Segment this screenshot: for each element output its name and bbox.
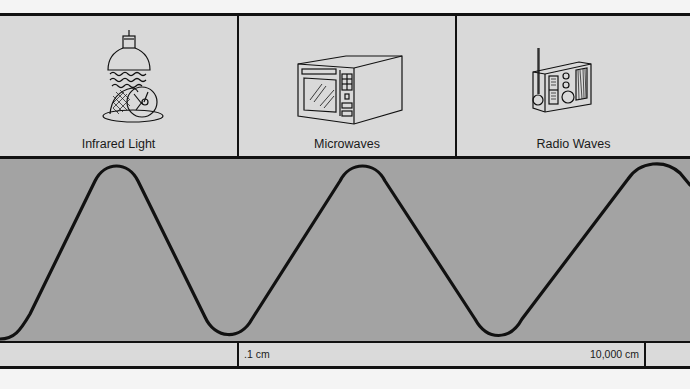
wavelength-scale: .1 cm 10,000 cm	[0, 343, 690, 366]
radio-icon	[529, 48, 599, 120]
scale-tick	[644, 343, 646, 366]
heat-lamp-icon	[98, 30, 168, 126]
panel-label-radio: Radio Waves	[457, 137, 690, 151]
wave-curve	[0, 159, 690, 341]
panel-infrared: Infrared Light	[0, 16, 237, 157]
scale-label-right: 10,000 cm	[590, 348, 639, 360]
panel-label-microwaves: Microwaves	[239, 137, 455, 151]
scale-tick	[237, 343, 239, 366]
panel-microwaves: Microwaves	[239, 16, 455, 157]
panel-divider	[455, 16, 457, 157]
panel-radio: Radio Waves	[457, 16, 690, 157]
scale-label-left: .1 cm	[244, 348, 270, 360]
wave-area	[0, 159, 690, 341]
panel-label-infrared: Infrared Light	[0, 137, 237, 151]
panel-divider	[237, 16, 239, 157]
spectrum-panels: Infrared Light Microwaves	[0, 16, 690, 157]
top-margin	[0, 0, 690, 13]
microwave-oven-icon	[296, 54, 406, 126]
bottom-margin	[0, 369, 690, 389]
